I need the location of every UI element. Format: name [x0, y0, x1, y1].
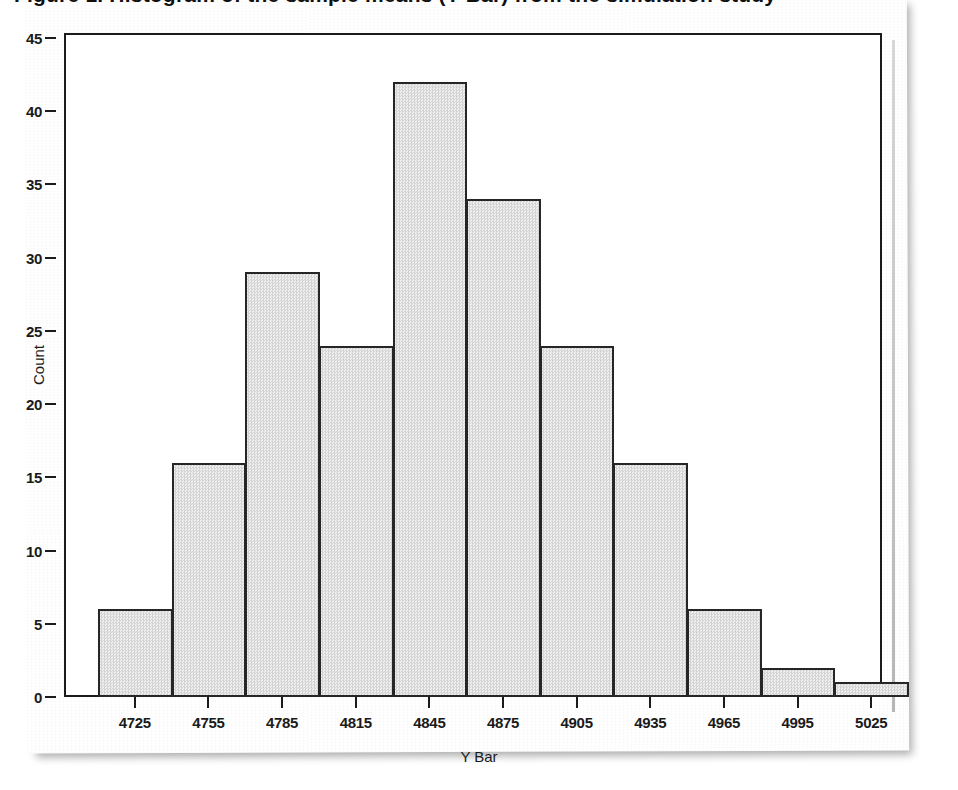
histogram-plot-area — [98, 38, 908, 697]
y-axis-tick-label: 10 — [26, 542, 42, 559]
y-axis-tick-label: 35 — [26, 176, 42, 193]
x-axis-tick-label: 4965 — [708, 714, 740, 731]
histogram-bar — [540, 346, 615, 697]
x-axis-tick-mark — [797, 697, 799, 708]
histogram-bar — [172, 463, 247, 697]
x-axis-tick-mark — [649, 697, 651, 708]
x-axis-tick-mark — [870, 697, 872, 708]
y-axis-tick-label: 30 — [26, 249, 42, 266]
y-axis-tick-mark — [45, 550, 56, 552]
histogram-bar — [687, 609, 762, 697]
x-axis-tick-mark — [502, 697, 504, 708]
x-axis-tick-label: 4875 — [487, 714, 519, 731]
y-axis-tick-label: 25 — [26, 322, 42, 339]
y-axis-tick-label: 20 — [26, 396, 42, 413]
y-axis-tick-mark — [45, 183, 56, 185]
x-axis-tick-mark — [428, 697, 430, 708]
figure-title: Figure 1. Histogram of the sample means … — [14, 0, 874, 7]
y-axis-tick-mark — [45, 696, 56, 698]
x-axis-tick-label: 4725 — [119, 714, 151, 731]
x-axis-tick-label: 4905 — [561, 714, 593, 731]
histogram-bar — [393, 82, 468, 697]
y-axis: 051015202530354045 — [0, 0, 64, 790]
x-axis-tick-label: 4845 — [413, 714, 445, 731]
x-axis-tick-label: 4935 — [634, 714, 666, 731]
x-axis-tick-mark — [723, 697, 725, 708]
y-axis-title: Count — [30, 345, 47, 385]
histogram-bar — [245, 272, 320, 697]
x-axis-tick-mark — [281, 697, 283, 708]
histogram-bar — [834, 682, 909, 697]
histogram-bar — [319, 346, 394, 697]
y-axis-tick-mark — [45, 37, 56, 39]
x-axis-title: Y Bar — [0, 748, 958, 765]
y-axis-tick-mark — [45, 403, 56, 405]
y-axis-tick-mark — [45, 110, 56, 112]
x-axis-tick-label: 4995 — [781, 714, 813, 731]
x-axis-tick-mark — [134, 697, 136, 708]
histogram-bar — [613, 463, 688, 697]
x-axis-tick-mark — [207, 697, 209, 708]
y-axis-tick-label: 0 — [34, 689, 42, 706]
x-axis-tick-label: 4815 — [340, 714, 372, 731]
x-axis-tick-label: 5025 — [855, 714, 887, 731]
y-axis-tick-label: 5 — [34, 615, 42, 632]
y-axis-tick-label: 45 — [26, 30, 42, 47]
y-axis-tick-mark — [45, 476, 56, 478]
x-axis-tick-label: 4785 — [266, 714, 298, 731]
x-axis-tick-label: 4755 — [192, 714, 224, 731]
x-axis-tick-mark — [355, 697, 357, 708]
y-axis-tick-label: 15 — [26, 469, 42, 486]
y-axis-tick-mark — [45, 330, 56, 332]
y-axis-tick-mark — [45, 623, 56, 625]
x-axis-tick-mark — [576, 697, 578, 708]
histogram-bar — [466, 199, 541, 697]
y-axis-tick-label: 40 — [26, 103, 42, 120]
y-axis-tick-mark — [45, 257, 56, 259]
histogram-bar — [98, 609, 173, 697]
histogram-bar — [761, 668, 836, 697]
